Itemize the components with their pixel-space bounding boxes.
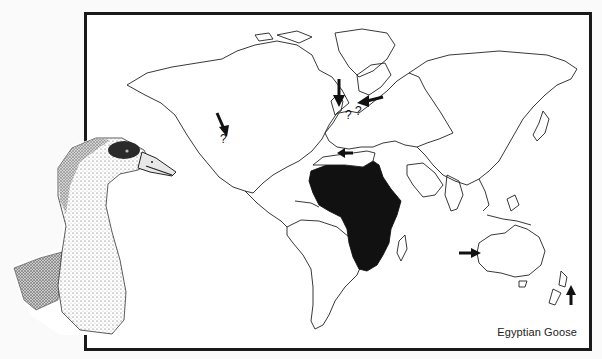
goose-back	[14, 252, 62, 310]
arrow-new-zealand	[566, 285, 576, 305]
arabia-outline	[407, 163, 443, 197]
africa-native-range	[309, 161, 401, 271]
central-america-outline	[245, 191, 287, 227]
australia-outline	[477, 225, 545, 277]
figure-caption: Egyptian Goose	[497, 326, 577, 338]
world-map: ? ? ?	[87, 15, 589, 348]
question-mark-western-europe: ?	[345, 108, 352, 122]
question-mark-central-europe: ?	[355, 104, 362, 118]
distribution-figure: ? ? ? Egyptian Goose	[0, 0, 602, 359]
asia-outline	[409, 51, 577, 185]
madagascar-outline	[397, 235, 407, 261]
map-frame: ? ? ? Egyptian Goose	[84, 12, 592, 351]
new-zealand-outline	[559, 271, 567, 287]
question-mark-north-america: ?	[220, 132, 227, 146]
japan-outline	[533, 111, 549, 141]
